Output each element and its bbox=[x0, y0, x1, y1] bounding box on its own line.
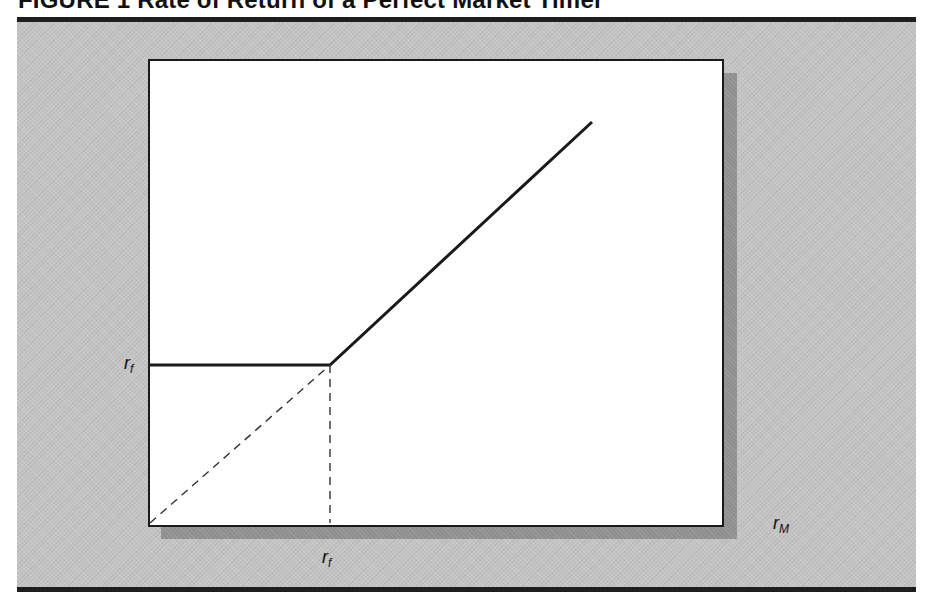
x-axis-label: rM bbox=[773, 514, 789, 535]
x-axis-rf-label: rf bbox=[322, 548, 331, 569]
diagonal-dashed-line bbox=[150, 365, 330, 523]
timer-return-line bbox=[150, 122, 592, 365]
chart-svg bbox=[0, 0, 926, 602]
y-axis-rf-label: rf bbox=[124, 354, 133, 375]
